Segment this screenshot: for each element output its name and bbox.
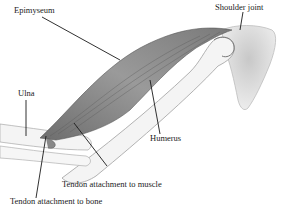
muscle-diagram: Epimyseum Shoulder joint Ulna Humerus Te… — [0, 0, 284, 209]
label-tendon-attachment-muscle: Tendon attachment to muscle — [62, 180, 162, 189]
label-humerus: Humerus — [150, 134, 181, 143]
label-tendon-attachment-bone: Tendon attachment to bone — [10, 197, 102, 206]
diagram-illustration — [0, 0, 284, 209]
label-shoulder-joint: Shoulder joint — [215, 3, 263, 12]
label-ulna: Ulna — [18, 89, 35, 98]
scapula-shape — [222, 26, 276, 110]
label-epimyseum: Epimyseum — [14, 6, 55, 15]
